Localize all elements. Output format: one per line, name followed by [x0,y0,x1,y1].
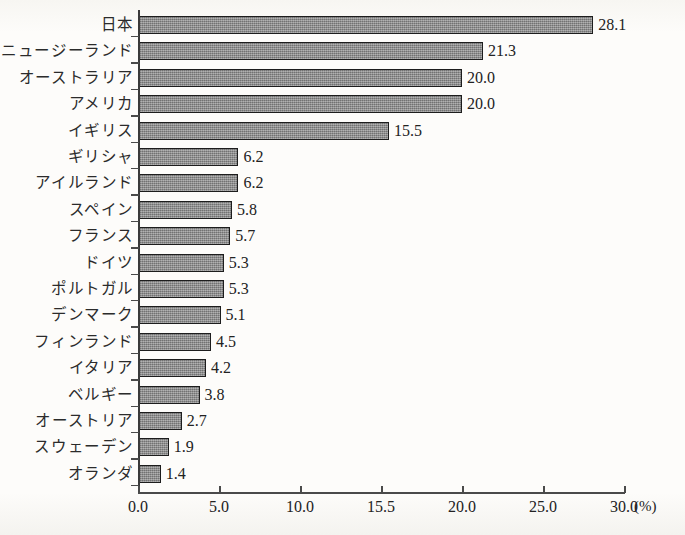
bar-fill [138,465,161,483]
y-axis-tick [131,300,139,302]
bar [138,95,462,113]
bar-fill [138,122,389,140]
y-axis-tick [131,221,139,223]
category-label: イギリス [0,118,138,144]
y-axis-tick [131,62,139,64]
category-label: アイルランド [0,170,138,196]
bar-row: アイルランド6.2 [0,170,685,196]
bar-value-label: 6.2 [238,170,263,196]
bar-chart: 日本28.1ニュージーランド21.3オーストラリア20.0アメリカ20.0イギリ… [0,0,685,535]
x-axis-tick [381,486,383,493]
y-axis-tick [131,194,139,196]
bar-fill [138,438,169,456]
bar-fill [138,306,221,324]
x-axis-tick-label: 10.0 [286,498,314,516]
x-axis-tick [543,486,545,493]
bar-fill [138,42,483,60]
y-axis-line [138,10,140,493]
bar-row: ドイツ5.3 [0,250,685,276]
category-label: スウェーデン [0,434,138,460]
category-label: アメリカ [0,91,138,117]
bar-fill [138,254,224,272]
bar-row: ニュージーランド21.3 [0,38,685,64]
bar-value-label: 21.3 [483,38,516,64]
bar-row: スウェーデン1.9 [0,434,685,460]
category-label: フィンランド [0,329,138,355]
y-axis-tick [131,432,139,434]
bar [138,333,211,351]
y-axis-tick [131,115,139,117]
bar-row: 日本28.1 [0,12,685,38]
y-axis-tick [131,326,139,328]
bar-fill [138,201,232,219]
bar-value-label: 5.7 [230,223,255,249]
bar-value-label: 2.7 [182,408,207,434]
x-axis-tick-label: 5.0 [209,498,229,516]
bar-value-label: 15.5 [389,118,422,144]
y-axis-tick [131,353,139,355]
bar-fill [138,16,593,34]
x-axis-tick [624,486,626,493]
bar [138,438,169,456]
bar-value-label: 1.9 [169,434,194,460]
bar-fill [138,69,462,87]
category-label: スペイン [0,197,138,223]
y-axis-tick [131,274,139,276]
bar-row: オランダ1.4 [0,461,685,487]
bar-value-label: 5.3 [224,250,249,276]
bar [138,174,238,192]
category-label: オーストラリア [0,65,138,91]
bar [138,386,200,404]
bar-row: ベルギー3.8 [0,382,685,408]
bar-fill [138,412,182,430]
bar-value-label: 1.4 [161,461,186,487]
y-axis-tick [131,142,139,144]
bar-value-label: 5.3 [224,276,249,302]
bar-value-label: 4.2 [206,355,231,381]
bar-row: アメリカ20.0 [0,91,685,117]
bar-fill [138,174,238,192]
bar [138,69,462,87]
category-label: 日本 [0,12,138,38]
bar-row: フィンランド4.5 [0,329,685,355]
bar-row: ポルトガル5.3 [0,276,685,302]
bar [138,465,161,483]
bar-value-label: 6.2 [238,144,263,170]
category-label: ポルトガル [0,276,138,302]
bar-value-label: 28.1 [593,12,626,38]
x-axis-unit-label: (%) [634,498,657,515]
bar-value-label: 5.1 [221,302,246,328]
category-label: デンマーク [0,302,138,328]
bar-row: オーストラリア20.0 [0,65,685,91]
bar-fill [138,359,206,377]
bar-row: ギリシャ6.2 [0,144,685,170]
y-axis-tick [131,379,139,381]
bar-value-label: 3.8 [200,382,225,408]
bar [138,280,224,298]
bar [138,254,224,272]
x-axis-tick-label: 20.0 [448,498,476,516]
category-label: ギリシャ [0,144,138,170]
x-axis-tick [138,486,140,493]
bar-fill [138,95,462,113]
bar [138,412,182,430]
x-axis-tick [300,486,302,493]
bar-value-label: 5.8 [232,197,257,223]
bar-row: スペイン5.8 [0,197,685,223]
bar [138,122,389,140]
bar-value-label: 20.0 [462,91,495,117]
category-label: フランス [0,223,138,249]
y-axis-tick [131,406,139,408]
x-axis-tick [219,486,221,493]
bar [138,359,206,377]
category-label: ニュージーランド [0,38,138,64]
bar-fill [138,227,230,245]
y-axis-tick [131,458,139,460]
bar [138,16,593,34]
bar-row: イギリス15.5 [0,118,685,144]
bar [138,306,221,324]
y-axis-tick [131,36,139,38]
bar [138,148,238,166]
bar-row: デンマーク5.1 [0,302,685,328]
bar [138,227,230,245]
